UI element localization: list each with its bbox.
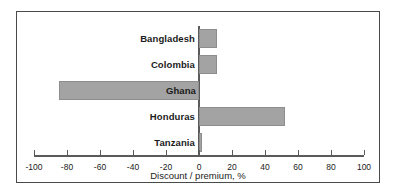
bar-row: Honduras bbox=[17, 107, 379, 126]
category-label-bangladesh: Bangladesh bbox=[140, 29, 195, 48]
bar-row: Bangladesh bbox=[17, 29, 379, 48]
x-tick bbox=[67, 150, 68, 155]
bar-row: Ghana bbox=[17, 81, 379, 100]
category-label-colombia: Colombia bbox=[151, 55, 195, 74]
bar-row: Colombia bbox=[17, 55, 379, 74]
category-label-ghana: Ghana bbox=[17, 81, 199, 100]
x-tick bbox=[265, 150, 266, 155]
x-tick bbox=[34, 150, 35, 155]
x-tick bbox=[364, 150, 365, 155]
bar-row: Tanzania bbox=[17, 133, 379, 152]
x-tick bbox=[133, 150, 134, 155]
x-tick bbox=[298, 150, 299, 155]
bar-colombia[interactable] bbox=[199, 55, 217, 74]
x-tick bbox=[166, 150, 167, 155]
chart-frame: Bangladesh Colombia Ghana Honduras Tanza… bbox=[16, 11, 380, 183]
bar-bangladesh[interactable] bbox=[199, 29, 217, 48]
category-label-tanzania: Tanzania bbox=[154, 133, 195, 152]
x-tick bbox=[199, 150, 200, 155]
x-axis-title: Discount / premium, % bbox=[17, 170, 379, 181]
x-tick bbox=[232, 150, 233, 155]
category-label-honduras: Honduras bbox=[150, 107, 195, 126]
x-tick bbox=[100, 150, 101, 155]
plot-area: Bangladesh Colombia Ghana Honduras Tanza… bbox=[17, 12, 379, 182]
x-axis-line: -100 -80 -60 -40 -20 0 20 40 60 80 100 bbox=[34, 155, 364, 157]
x-tick bbox=[331, 150, 332, 155]
bar-honduras[interactable] bbox=[199, 107, 285, 126]
